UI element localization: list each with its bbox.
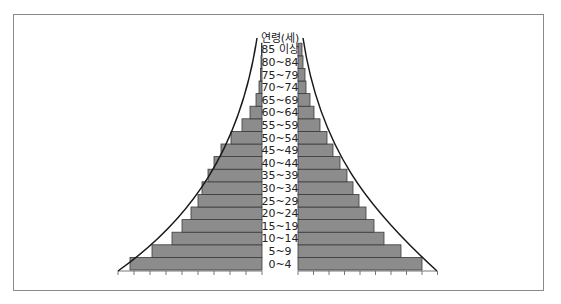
age-label: 45~49 <box>261 144 298 157</box>
right-bar <box>298 131 327 144</box>
age-label: 65~69 <box>261 94 298 107</box>
age-label: 15~19 <box>261 220 298 233</box>
right-bar <box>298 106 314 119</box>
left-bar <box>250 106 262 119</box>
age-label: 40~44 <box>261 157 298 170</box>
right-bar <box>298 119 320 132</box>
right-bar <box>298 207 366 220</box>
left-bar <box>191 207 262 220</box>
left-bar <box>152 245 262 258</box>
right-bar <box>298 169 347 182</box>
left-bar <box>214 157 262 170</box>
left-bar <box>221 144 262 157</box>
right-bar <box>298 245 401 258</box>
right-bar <box>298 94 310 107</box>
left-bar <box>198 194 262 207</box>
right-bar <box>298 56 303 69</box>
right-bar <box>298 157 340 170</box>
right-bar <box>298 232 384 245</box>
age-label: 75~79 <box>261 69 298 82</box>
age-label: 20~24 <box>261 207 298 220</box>
right-bar <box>298 144 333 157</box>
age-label: 30~34 <box>261 182 298 195</box>
left-bar <box>208 169 262 182</box>
left-bar <box>130 257 262 270</box>
population-pyramid-chart: 연령(세) 0~45~910~1415~1920~2425~2930~3435~… <box>0 0 561 304</box>
age-label: 55~59 <box>261 119 298 132</box>
age-label: 85 이상 <box>261 43 299 56</box>
age-label: 50~54 <box>261 132 298 145</box>
right-bar <box>298 194 359 207</box>
age-label: 10~14 <box>261 232 298 245</box>
left-bar <box>202 182 262 195</box>
right-bar <box>298 182 353 195</box>
left-bar <box>231 131 262 144</box>
age-label: 70~74 <box>261 81 298 94</box>
right-bar <box>298 81 306 94</box>
right-bar <box>298 257 422 270</box>
left-bar <box>182 220 262 233</box>
age-label: 60~64 <box>261 106 298 119</box>
age-label: 25~29 <box>261 195 298 208</box>
right-bar <box>298 68 305 81</box>
left-bar <box>172 232 262 245</box>
right-bar <box>298 220 374 233</box>
left-bar <box>242 119 262 132</box>
age-label: 5~9 <box>268 245 291 258</box>
age-label: 0~4 <box>268 258 291 271</box>
age-label: 35~39 <box>261 169 298 182</box>
age-label: 80~84 <box>261 56 298 69</box>
